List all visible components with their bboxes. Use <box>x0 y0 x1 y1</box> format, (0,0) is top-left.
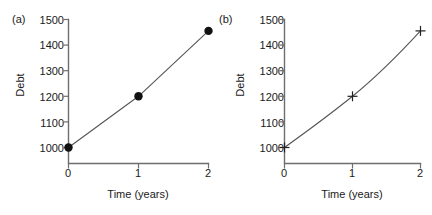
data-point-2-a <box>204 27 212 35</box>
axis-lines-a <box>69 20 209 164</box>
figure-container: (a) 1500 1400 1300 1200 1100 1000 Debt 0… <box>0 0 432 215</box>
data-series-curve-b <box>285 31 421 148</box>
x-tick-marks-a <box>69 164 209 169</box>
data-series-line-a <box>69 31 209 148</box>
chart-panel-b: (b) 1500 1400 1300 1200 1100 1000 Debt 0… <box>216 0 432 215</box>
data-point-0-a <box>64 143 72 151</box>
y-tick-marks-a <box>64 20 69 148</box>
y-tick-marks-b <box>280 20 285 148</box>
plot-area-b <box>216 0 432 215</box>
data-point-0-b <box>280 143 290 153</box>
chart-panel-a: (a) 1500 1400 1300 1200 1100 1000 Debt 0… <box>0 0 216 215</box>
data-point-1-a <box>134 92 142 100</box>
data-markers-a <box>64 27 212 152</box>
plot-area-a <box>0 0 216 215</box>
x-tick-marks-b <box>285 164 421 169</box>
data-markers-b <box>280 26 426 153</box>
